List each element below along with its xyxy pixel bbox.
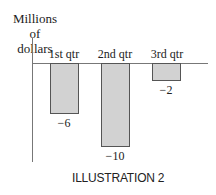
category-label-q1: 1st qtr <box>39 47 89 62</box>
category-label-q3: 3rd qtr <box>142 47 192 62</box>
category-label-q2: 2nd qtr <box>90 47 140 62</box>
figure-caption: ILLUSTRATION 2 <box>0 171 216 185</box>
bar-q2 <box>101 63 130 147</box>
value-label-q2: −10 <box>100 149 130 164</box>
y-axis-line <box>32 38 33 162</box>
y-axis-label-line1: Millions of <box>8 11 62 41</box>
bar-q1 <box>50 63 79 114</box>
bar-q3 <box>152 63 181 81</box>
value-label-q1: −6 <box>49 116 79 131</box>
value-label-q3: −2 <box>151 83 181 98</box>
